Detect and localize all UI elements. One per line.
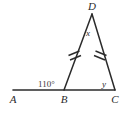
- vertex-label-a: A: [9, 93, 17, 105]
- angle-label-d-x: x: [85, 28, 90, 38]
- geometry-diagram-svg: A B C D 110° x y: [0, 0, 130, 117]
- angle-label-b-110: 110°: [38, 79, 55, 89]
- vertex-label-c: C: [111, 93, 119, 105]
- vertex-label-b: B: [61, 93, 68, 105]
- tick-marks-bd: [69, 51, 82, 60]
- angle-label-c-y: y: [101, 79, 106, 89]
- vertex-label-d: D: [87, 0, 96, 12]
- geometry-figure: A B C D 110° x y: [0, 0, 130, 117]
